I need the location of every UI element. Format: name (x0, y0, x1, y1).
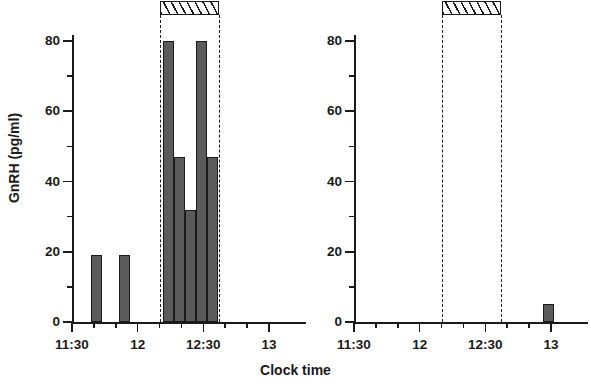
x-tick-710 (115, 323, 117, 328)
y-tick-50 (349, 146, 354, 148)
x-tick-770 (528, 323, 530, 328)
y-tick-10 (67, 286, 72, 288)
bar-1214-80 (163, 41, 174, 322)
y-tick-10 (349, 286, 354, 288)
x-tick-750 (485, 323, 487, 332)
y-tick-30 (67, 216, 72, 218)
x-axis-line (72, 322, 306, 324)
x-axis-line (354, 322, 588, 324)
bar-1154-19 (119, 255, 130, 322)
y-tick-50 (67, 146, 72, 148)
gnrh-clock-time-figure: 02040608011:301212:3013 100 μM Bicuculll… (0, 0, 591, 386)
x-tick-label-13: 13 (511, 338, 591, 352)
bicuculline-panel: 02040608011:301212:3013 100 μM Bicuculll… (0, 0, 300, 386)
y-axis-line (72, 35, 74, 324)
y-tick-label-60: 60 (296, 104, 342, 118)
x-tick-700 (375, 323, 377, 328)
y-tick-40 (345, 181, 354, 183)
bar-1259-5 (543, 304, 554, 322)
x-tick-710 (397, 323, 399, 328)
y-tick-70 (67, 75, 72, 77)
treatment-start-line (160, 15, 161, 322)
y-tick-label-80: 80 (14, 34, 60, 48)
x-tick-720 (137, 323, 139, 332)
x-tick-740 (181, 323, 183, 328)
y-tick-80 (63, 40, 72, 42)
bar-1141-19 (91, 255, 102, 322)
y-tick-70 (349, 75, 354, 77)
x-tick-700 (93, 323, 95, 328)
treatment-hatched-bar (160, 1, 219, 15)
y-tick-80 (345, 40, 354, 42)
y-tick-60 (345, 110, 354, 112)
x-tick-740 (463, 323, 465, 328)
y-tick-label-0: 0 (14, 315, 60, 329)
y-tick-label-20: 20 (296, 245, 342, 259)
x-tick-720 (419, 323, 421, 332)
treatment-end-line (501, 15, 502, 322)
x-tick-730 (159, 323, 161, 328)
x-tick-780 (268, 323, 270, 332)
y-tick-label-20: 20 (14, 245, 60, 259)
x-tick-770 (246, 323, 248, 328)
y-tick-40 (63, 181, 72, 183)
x-tick-760 (506, 323, 508, 328)
bar-1229-80 (196, 41, 207, 322)
y-tick-20 (345, 251, 354, 253)
treatment-start-line (442, 15, 443, 322)
y-tick-60 (63, 110, 72, 112)
treatment-end-line (219, 15, 220, 322)
x-axis-title: Clock time (0, 362, 591, 378)
x-tick-760 (224, 323, 226, 328)
naloxone-panel: 02040608011:301212:3013 100 μM Naloxone (291, 0, 591, 386)
y-tick-label-80: 80 (296, 34, 342, 48)
y-tick-30 (349, 216, 354, 218)
y-tick-label-40: 40 (296, 175, 342, 189)
y-tick-20 (63, 251, 72, 253)
x-tick-690 (71, 323, 73, 332)
x-tick-730 (441, 323, 443, 328)
x-tick-780 (550, 323, 552, 332)
y-tick-label-0: 0 (296, 315, 342, 329)
treatment-hatched-bar (442, 1, 501, 15)
bar-1224-32 (185, 210, 196, 322)
bar-1234-47 (207, 157, 218, 322)
x-tick-750 (203, 323, 205, 332)
y-axis-line (354, 35, 356, 324)
x-tick-690 (353, 323, 355, 332)
bar-1219-47 (174, 157, 185, 322)
y-axis-title: GnRH (pg/ml) (6, 88, 22, 228)
